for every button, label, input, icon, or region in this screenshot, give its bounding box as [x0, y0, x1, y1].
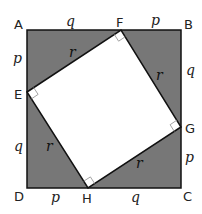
- segment-label-GC: p: [185, 149, 194, 165]
- vertex-label-H: H: [82, 191, 92, 206]
- vertex-label-A: A: [14, 17, 23, 32]
- segment-label-FB: p: [151, 12, 160, 28]
- vertex-label-D: D: [14, 189, 24, 204]
- vertex-label-F: F: [116, 15, 123, 30]
- pythagorean-square-diagram: A B C D E F G H q p p q q p p q r r r r: [0, 0, 202, 214]
- segment-label-HC: q: [131, 189, 140, 205]
- segment-label-DH: p: [51, 189, 60, 205]
- segment-label-BG: q: [186, 62, 195, 78]
- vertex-label-B: B: [184, 17, 193, 32]
- vertex-label-C: C: [183, 189, 192, 204]
- vertex-label-E: E: [14, 87, 22, 102]
- segment-label-ED: q: [14, 138, 23, 154]
- segment-label-AF: q: [66, 13, 75, 29]
- segment-label-AE: p: [13, 50, 22, 66]
- vertex-label-G: G: [185, 121, 195, 136]
